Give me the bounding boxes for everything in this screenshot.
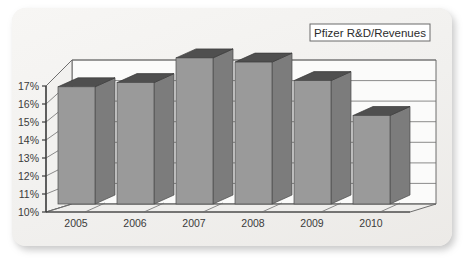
- chart-legend: Pfizer R&D/Revenues: [310, 24, 430, 41]
- y-tick-label-13: 13%: [18, 152, 39, 164]
- bar-2008-front: [235, 62, 272, 204]
- x-tick-label-2008: 2008: [241, 217, 265, 229]
- plot-floor: [46, 204, 436, 212]
- legend-label: Pfizer R&D/Revenues: [314, 27, 426, 39]
- chart-svg: 17% 16% 15% 14% 13% 12% 11% 10%: [12, 8, 452, 246]
- bar-2007-side: [213, 49, 233, 204]
- bar-2010: [353, 107, 410, 205]
- bar-2008-side: [272, 53, 292, 204]
- y-tick-label-16: 16%: [18, 98, 39, 110]
- bar-2009-front: [294, 81, 331, 204]
- bar-2005-front: [58, 87, 95, 204]
- bar-2008: [235, 53, 292, 204]
- bar-2006: [117, 74, 174, 204]
- x-tick-label-2007: 2007: [182, 217, 206, 229]
- bar-chart: 17% 16% 15% 14% 13% 12% 11% 10%: [12, 8, 452, 246]
- bar-2009: [294, 72, 351, 204]
- bar-2007-front: [176, 58, 213, 204]
- bar-2010-front: [353, 116, 390, 205]
- x-tick-label-2009: 2009: [300, 217, 324, 229]
- x-tick-label-2005: 2005: [64, 217, 88, 229]
- y-tick-label-15: 15%: [18, 116, 39, 128]
- chart-screenshot: 17% 16% 15% 14% 13% 12% 11% 10%: [0, 0, 472, 263]
- bar-2006-front: [117, 83, 154, 204]
- bar-2006-side: [154, 74, 174, 204]
- y-tick-label-14: 14%: [18, 134, 39, 146]
- x-tick-label-2006: 2006: [123, 217, 147, 229]
- y-tick-label-12: 12%: [18, 170, 39, 182]
- y-tick-label-10: 10%: [18, 206, 39, 218]
- x-tick-label-2010: 2010: [359, 217, 383, 229]
- bar-2007: [176, 49, 233, 204]
- bar-2005-side: [95, 78, 115, 204]
- y-tick-label-11: 11%: [19, 188, 39, 200]
- bar-2005: [58, 78, 115, 204]
- y-tick-label-17: 17%: [18, 80, 39, 92]
- chart-card: 17% 16% 15% 14% 13% 12% 11% 10%: [12, 8, 452, 246]
- bar-2010-side: [390, 107, 410, 205]
- bar-2009-side: [331, 72, 351, 204]
